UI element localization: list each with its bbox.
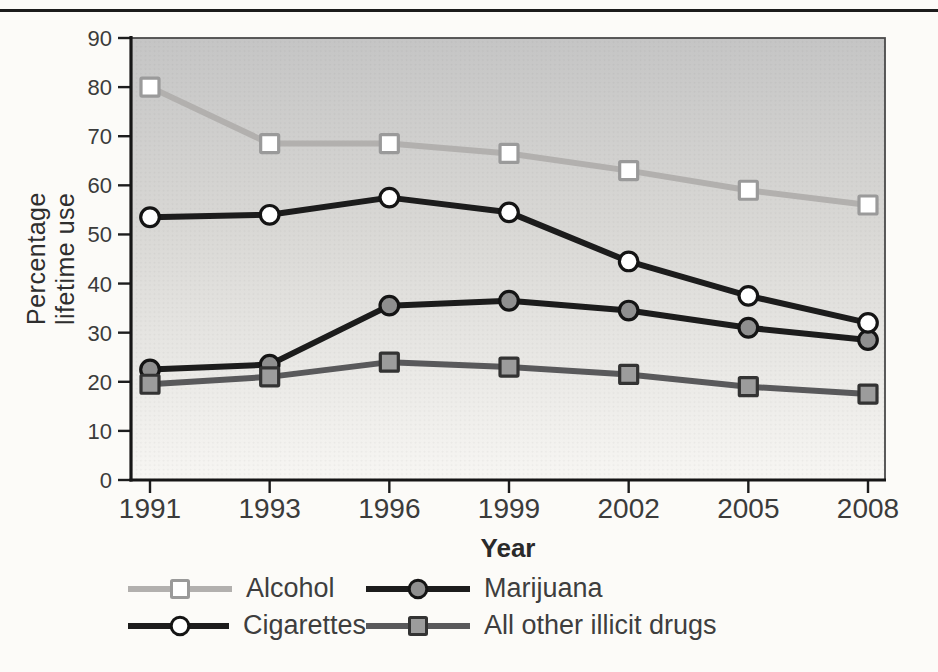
legend-label-cigarettes: Cigarettes (243, 610, 366, 641)
legend-item-alcohol: Alcohol (128, 570, 366, 607)
marker-cigarettes (260, 206, 279, 225)
x-tick-label: 1996 (358, 493, 420, 524)
marker-alcohol (739, 181, 757, 199)
marker-cigarettes (739, 287, 758, 306)
marker-cigarettes (859, 314, 878, 333)
y-tick-label: 60 (88, 173, 112, 198)
marker-cigarettes (380, 188, 399, 207)
x-tick-label: 1999 (478, 493, 540, 524)
y-tick-label: 80 (88, 75, 112, 100)
y-tick-label: 70 (88, 124, 112, 149)
legend-label-alcohol: Alcohol (246, 573, 335, 604)
marker-all-other-illicit-drugs (410, 617, 427, 634)
legend-item-marijuana: Marijuana (366, 570, 717, 607)
y-tick-label: 10 (88, 419, 112, 444)
legend-label-all-other-illicit-drugs: All other illicit drugs (484, 610, 717, 641)
marker-alcohol (172, 580, 189, 597)
legend-sample-marijuana (366, 575, 470, 603)
y-axis-label: Percentage lifetime use (22, 148, 54, 370)
marker-all-other-illicit-drugs (620, 365, 638, 383)
marker-marijuana (739, 318, 758, 337)
marker-marijuana (380, 296, 399, 315)
y-tick-label: 50 (88, 222, 112, 247)
marker-alcohol (141, 78, 159, 96)
x-tick-label: 1991 (119, 493, 181, 524)
y-tick-label: 30 (88, 321, 112, 346)
marker-alcohol (500, 144, 518, 162)
marker-alcohol (380, 135, 398, 153)
y-tick-label: 90 (88, 26, 112, 51)
marker-cigarettes (171, 617, 189, 635)
marker-all-other-illicit-drugs (141, 375, 159, 393)
y-tick-label: 40 (88, 272, 112, 297)
legend-item-cigarettes: Cigarettes (128, 607, 366, 644)
legend-item-all-other-illicit-drugs: All other illicit drugs (366, 607, 717, 644)
y-tick-label: 20 (88, 370, 112, 395)
marker-all-other-illicit-drugs (859, 385, 877, 403)
marker-marijuana (409, 580, 427, 598)
legend-column-left: Alcohol Cigarettes (128, 570, 366, 644)
figure-page: 0102030405060708090199119931996199920022… (0, 0, 938, 672)
x-tick-label: 2002 (598, 493, 660, 524)
marker-alcohol (620, 162, 638, 180)
marker-marijuana (500, 291, 519, 310)
legend-label-marijuana: Marijuana (484, 573, 603, 604)
marker-all-other-illicit-drugs (380, 353, 398, 371)
x-tick-label: 2005 (717, 493, 779, 524)
marker-alcohol (859, 196, 877, 214)
x-axis-label: Year (408, 533, 608, 564)
legend: Alcohol Cigarettes Marijuana All other i… (128, 570, 717, 644)
marker-all-other-illicit-drugs (261, 368, 279, 386)
x-tick-label: 2008 (837, 493, 899, 524)
marker-all-other-illicit-drugs (739, 378, 757, 396)
marker-cigarettes (500, 203, 519, 222)
legend-sample-cigarettes (128, 612, 229, 640)
x-tick-label: 1993 (239, 493, 301, 524)
marker-all-other-illicit-drugs (500, 358, 518, 376)
legend-sample-alcohol (128, 575, 232, 603)
legend-column-right: Marijuana All other illicit drugs (366, 570, 717, 644)
plot-area-texture (131, 38, 885, 480)
marker-marijuana (619, 301, 638, 320)
marker-cigarettes (141, 208, 160, 227)
marker-cigarettes (619, 252, 638, 271)
legend-sample-all-other-illicit-drugs (366, 612, 470, 640)
y-tick-label: 0 (100, 468, 112, 493)
marker-alcohol (261, 135, 279, 153)
